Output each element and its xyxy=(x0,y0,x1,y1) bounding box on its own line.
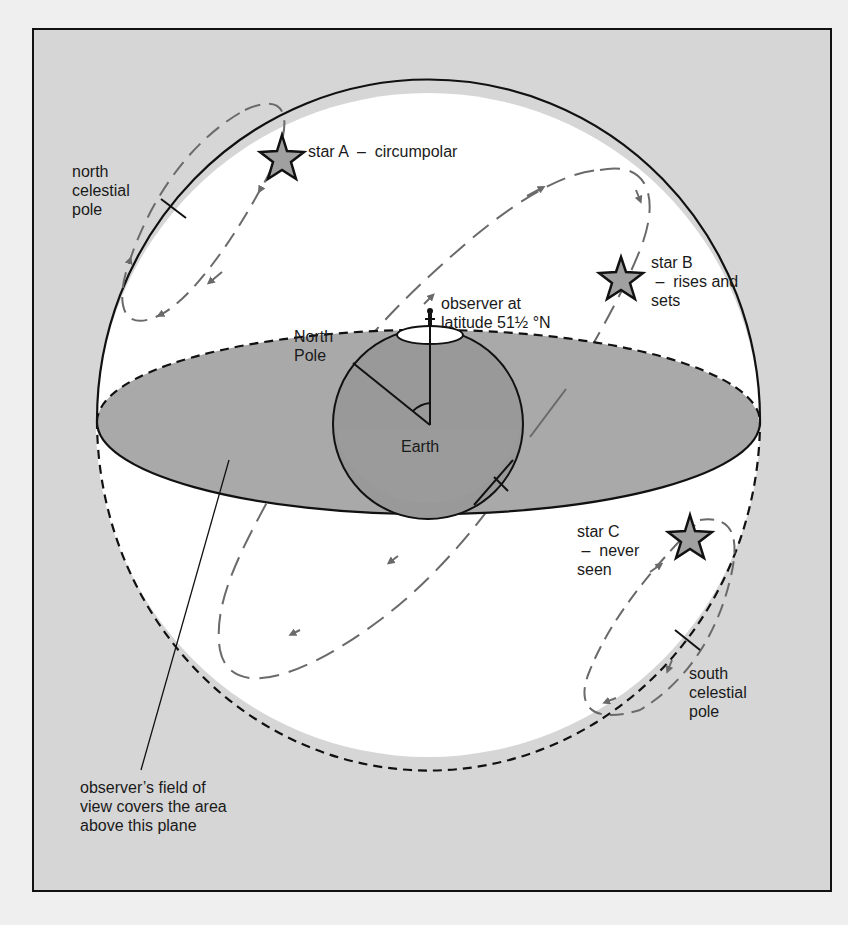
star-a-label: star A – circumpolar xyxy=(308,142,457,161)
star-c-label: star C – never seen xyxy=(577,522,639,579)
observer-label: observer at latitude 51½ °N xyxy=(441,294,551,332)
south-celestial-pole-label: south celestial pole xyxy=(689,664,747,721)
north-pole-label: North Pole xyxy=(294,327,333,365)
north-celestial-pole-label: north celestial pole xyxy=(72,162,130,219)
plane-note-label: observer’s field of view covers the area… xyxy=(80,778,227,835)
star-b-label: star B – rises and sets xyxy=(651,253,738,310)
earth-label: Earth xyxy=(401,437,439,456)
